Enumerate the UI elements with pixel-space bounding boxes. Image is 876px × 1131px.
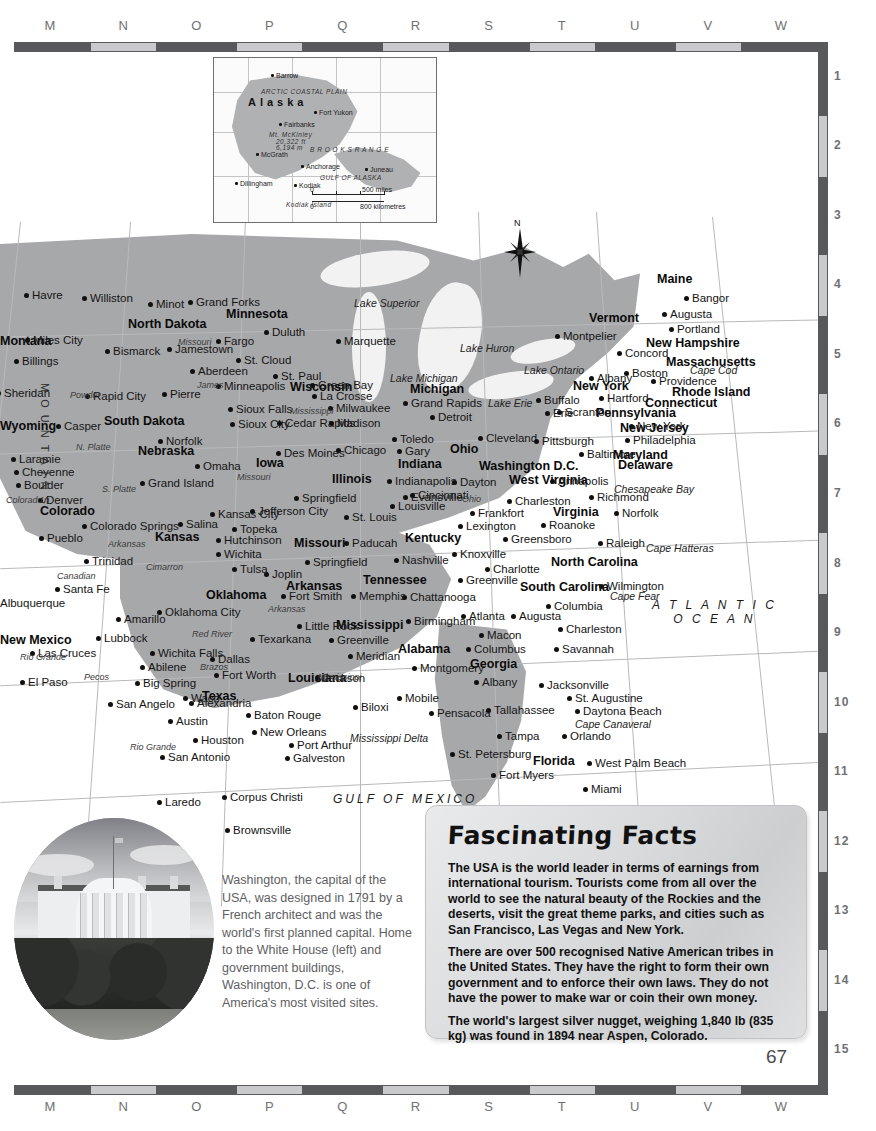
alaska-scale-kilometres: 800 kilometres — [360, 203, 406, 210]
city-label: Scranton — [565, 406, 611, 418]
state-label: Florida — [533, 754, 575, 768]
physical-feature-label: Cape Hatteras — [646, 542, 714, 554]
alaska-city-dot — [235, 182, 238, 185]
city-dot — [135, 681, 140, 686]
city-label: Portland — [677, 323, 720, 335]
city-dot — [589, 376, 594, 381]
physical-feature-label: Lake Superior — [354, 297, 419, 309]
city-dot — [461, 614, 466, 619]
compass-rose: N — [500, 222, 540, 284]
alaska-scale-miles: 500 miles — [362, 186, 392, 193]
city-dot — [558, 627, 563, 632]
city-dot — [96, 636, 101, 641]
city-dot — [158, 439, 163, 444]
city-dot — [285, 756, 290, 761]
city-dot — [188, 300, 193, 305]
alaska-city-dot — [365, 168, 368, 171]
city-label: St. Petersburg — [458, 748, 532, 760]
city-label: Columbia — [554, 600, 603, 612]
city-dot — [458, 578, 463, 583]
city-dot — [162, 392, 167, 397]
city-dot — [429, 711, 434, 716]
state-label: South Dakota — [104, 414, 185, 428]
city-dot — [250, 637, 255, 642]
city-dot — [84, 559, 89, 564]
city-dot — [474, 680, 479, 685]
row-number-10: 10 — [834, 695, 858, 709]
city-dot — [662, 312, 667, 317]
alaska-inset-map[interactable]: Alaska BarrowFort YukonFairbanksMcGrathA… — [213, 57, 437, 223]
column-letter-o: O — [160, 18, 233, 33]
state-label: Minnesota — [226, 307, 288, 321]
city-label: Casper — [64, 420, 101, 432]
city-label: Paducah — [352, 537, 397, 549]
city-dot — [216, 552, 221, 557]
column-letter-bottom-o: O — [160, 1099, 233, 1114]
city-dot — [684, 296, 689, 301]
city-dot — [550, 479, 555, 484]
alaska-feature-label: Mt. McKinley — [269, 131, 312, 138]
city-label: Marquette — [344, 335, 396, 347]
city-label: Grand Island — [148, 477, 214, 489]
city-label: Pittsburgh — [542, 435, 594, 447]
city-label: Jefferson City — [258, 505, 328, 517]
facts-paragraph: The USA is the world leader in terms of … — [426, 854, 806, 938]
city-dot — [150, 651, 155, 656]
alaska-feature-label: ARCTIC COASTAL PLAIN — [261, 88, 347, 95]
alaska-scale-zero-bottom: 0 — [310, 203, 314, 210]
city-label: Biloxi — [361, 701, 388, 713]
city-dot — [11, 457, 16, 462]
city-dot — [225, 828, 230, 833]
city-dot — [216, 538, 221, 543]
city-label: Minneapolis — [224, 380, 285, 392]
city-dot — [397, 696, 402, 701]
city-label: Cleveland — [486, 432, 537, 444]
city-dot — [599, 396, 604, 401]
city-label: Grand Rapids — [411, 397, 482, 409]
frame-segment — [383, 1086, 448, 1094]
city-dot — [651, 379, 656, 384]
city-label: Billings — [22, 355, 58, 367]
city-dot — [16, 483, 21, 488]
state-label: Oklahoma — [206, 588, 266, 602]
city-label: Abilene — [148, 661, 186, 673]
river-label: Arkansas — [108, 539, 146, 549]
frame-segment — [91, 43, 156, 51]
city-label: Duluth — [272, 326, 305, 338]
city-dot — [55, 587, 60, 592]
city-label: Buffalo — [544, 394, 580, 406]
facts-paragraph: There are over 500 recognised Native Ame… — [426, 938, 806, 1007]
city-label: Nashville — [402, 554, 449, 566]
city-dot — [554, 647, 559, 652]
city-label: Fort Myers — [499, 769, 554, 781]
column-letter-w: W — [745, 18, 818, 33]
river-label: Pecos — [84, 672, 109, 682]
city-dot — [297, 624, 302, 629]
river-label: Mississippi — [318, 672, 362, 682]
city-label: Concord — [625, 347, 668, 359]
city-label: New York — [637, 420, 686, 432]
state-label: Virginia — [553, 505, 599, 519]
city-label: Lubbock — [104, 632, 147, 644]
city-label: St. Augustine — [575, 692, 643, 704]
city-dot — [336, 339, 341, 344]
row-number-8: 8 — [834, 556, 858, 570]
city-dot — [14, 470, 19, 475]
city-label: Grand Forks — [196, 296, 260, 308]
column-letter-bottom-v: V — [672, 1099, 745, 1114]
alaska-city-label: Juneau — [370, 166, 393, 173]
city-dot — [210, 512, 215, 517]
river-label: Mississippi — [290, 406, 334, 416]
city-label: Alexandria — [197, 697, 251, 709]
city-label: Columbus — [474, 643, 526, 655]
river-label: S. Platte — [102, 484, 136, 494]
city-dot — [629, 424, 634, 429]
frame-segment — [383, 43, 448, 51]
city-label: Colorado Springs — [90, 520, 179, 532]
row-number-15: 15 — [834, 1042, 858, 1056]
frame-segment — [819, 116, 827, 178]
city-label: Macon — [487, 629, 522, 641]
city-label: Pensacola — [437, 707, 491, 719]
river-label: Missouri — [178, 337, 212, 347]
frame-segment — [819, 533, 827, 595]
